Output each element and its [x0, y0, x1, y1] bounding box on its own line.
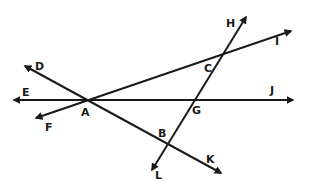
geometry-diagram: D E F A H C I G J B L K [0, 0, 311, 186]
diagram-svg: D E F A H C I G J B L K [0, 0, 311, 186]
line-hl [152, 17, 246, 170]
line-dk [25, 66, 221, 173]
label-j: J [269, 84, 274, 97]
label-f: F [45, 121, 53, 134]
label-k: K [206, 153, 215, 166]
label-b: B [158, 127, 166, 140]
label-a: A [81, 106, 90, 119]
label-d: D [35, 60, 44, 73]
line-fi [36, 31, 291, 118]
label-c: C [204, 62, 212, 75]
label-h: H [226, 17, 235, 30]
label-e: E [22, 86, 30, 99]
label-l: L [155, 169, 162, 182]
label-i: I [275, 35, 279, 48]
label-g: G [192, 104, 201, 117]
